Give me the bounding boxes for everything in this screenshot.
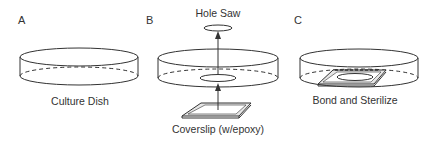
bonded-coverslip [318,70,386,86]
caption-b: Coverslip (w/epoxy) [172,123,264,135]
caption-c: Bond and Sterilize [312,94,397,106]
coverslip [182,102,252,118]
cut-disc [204,25,232,31]
panel-letter-b: B [146,14,153,26]
arrow-up-icon [215,31,221,74]
drilled-hole [200,75,236,82]
hole-saw-label: Hole Saw [196,7,241,19]
panel-letter-a: A [18,14,26,26]
panel-a: A Culture Dish [18,14,138,107]
figure: A Culture Dish B Hole Saw [0,0,429,143]
panel-b: B Hole Saw Co [146,7,278,135]
panel-c: C Bond and Sterilize [294,14,418,106]
caption-a: Culture Dish [51,95,109,107]
culture-dish-a [20,48,138,85]
panel-letter-c: C [294,14,302,26]
